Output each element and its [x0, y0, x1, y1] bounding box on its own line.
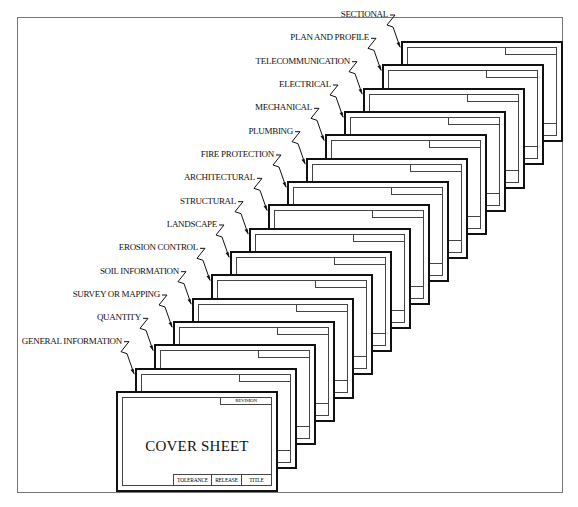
revision-block: REVISION	[220, 398, 271, 405]
sheet-label: SECTIONAL	[341, 9, 388, 19]
revision-block	[505, 48, 556, 55]
title-block-release: RELEASE	[211, 475, 241, 485]
revision-block	[239, 375, 290, 382]
sheet-label: QUANTITY	[97, 312, 141, 322]
revision-block	[315, 281, 366, 288]
revision-block	[410, 165, 461, 172]
revision-block	[486, 71, 537, 78]
sheet-label: EROSION CONTROL	[119, 242, 198, 252]
revision-block	[391, 188, 442, 195]
revision-block	[372, 211, 423, 218]
title-block-title: TITLE	[241, 475, 271, 485]
sheet-label: STRUCTURAL	[180, 196, 236, 206]
sheet-label: PLAN AND PROFILE	[290, 32, 369, 42]
sheet-label: SURVEY OR MAPPING	[73, 289, 160, 299]
title-block-tolerance: TOLERANCE	[173, 475, 211, 485]
revision-block	[334, 258, 385, 265]
cover-sheet: REVISIONCOVER SHEETTOLERANCERELEASETITLE	[116, 391, 278, 492]
cover-title: COVER SHEET	[123, 438, 271, 455]
sheet-label: ARCHITECTURAL	[184, 172, 255, 182]
revision-block	[467, 95, 518, 102]
revision-block	[429, 141, 480, 148]
revision-block	[296, 305, 347, 312]
sheet-label: ELECTRICAL	[279, 79, 331, 89]
sheet-label: MECHANICAL	[255, 102, 312, 112]
revision-block	[448, 118, 499, 125]
sheet-label: TELECOMMUNICATION	[256, 56, 350, 66]
revision-block	[353, 235, 404, 242]
revision-block	[277, 328, 328, 335]
sheet-label: FIRE PROTECTION	[201, 149, 274, 159]
sheet-label: LANDSCAPE	[167, 219, 217, 229]
sheet-label: PLUMBING	[248, 126, 293, 136]
sheet-border: REVISIONCOVER SHEETTOLERANCERELEASETITLE	[122, 397, 272, 486]
sheet-label: SOIL INFORMATION	[100, 266, 179, 276]
revision-block	[258, 351, 309, 358]
sheet-label: GENERAL INFORMATION	[22, 336, 122, 346]
title-block: TOLERANCERELEASETITLE	[173, 474, 271, 485]
